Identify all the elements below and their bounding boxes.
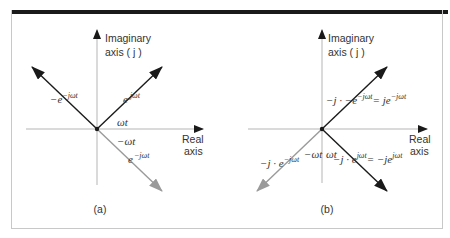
imag-axis-label-2: axis ( j ) (105, 46, 142, 58)
real-axis-label-1: Real (182, 133, 204, 145)
angle-wt: ωt (117, 116, 129, 128)
panel-b: Imaginary axis ( j ) Real axis −j · −e−j… (248, 30, 431, 215)
real-axis-label-2: axis (184, 145, 203, 157)
caption-b: (b) (321, 203, 334, 215)
imag-axis-label-1: Imaginary (105, 32, 152, 44)
label-e-minus-jwt: e−jωt (128, 151, 150, 165)
imag-axis-label-1: Imaginary (328, 32, 375, 44)
angle-minus-wt: −ωt (304, 148, 323, 160)
label-minus-j-e-minus-jwt: −j · e−jωt (260, 155, 300, 169)
panel-a: Imaginary axis ( j ) Real axis −e−jωt ej… (26, 30, 204, 215)
label-e-jwt: ejωt (123, 91, 141, 105)
label-minus-je-jwt: −j · ejωt= −jejωt (333, 151, 403, 165)
phasor-diagram: Imaginary axis ( j ) Real axis −e−jωt ej… (0, 0, 450, 238)
angle-wt: ωt (326, 148, 338, 160)
caption-a: (a) (94, 203, 107, 215)
real-axis-label-1: Real (409, 133, 431, 145)
real-axis-label-2: axis (410, 145, 429, 157)
label-je-minus-jwt: −j · −e−jωt= je−jωt (326, 92, 407, 106)
label-minus-e-minus-jwt: −e−jωt (50, 91, 79, 105)
origin-dot (95, 127, 99, 131)
imag-axis-label-2: axis ( j ) (328, 46, 365, 58)
angle-minus-wt: −ωt (117, 135, 136, 147)
origin-dot (320, 127, 324, 131)
